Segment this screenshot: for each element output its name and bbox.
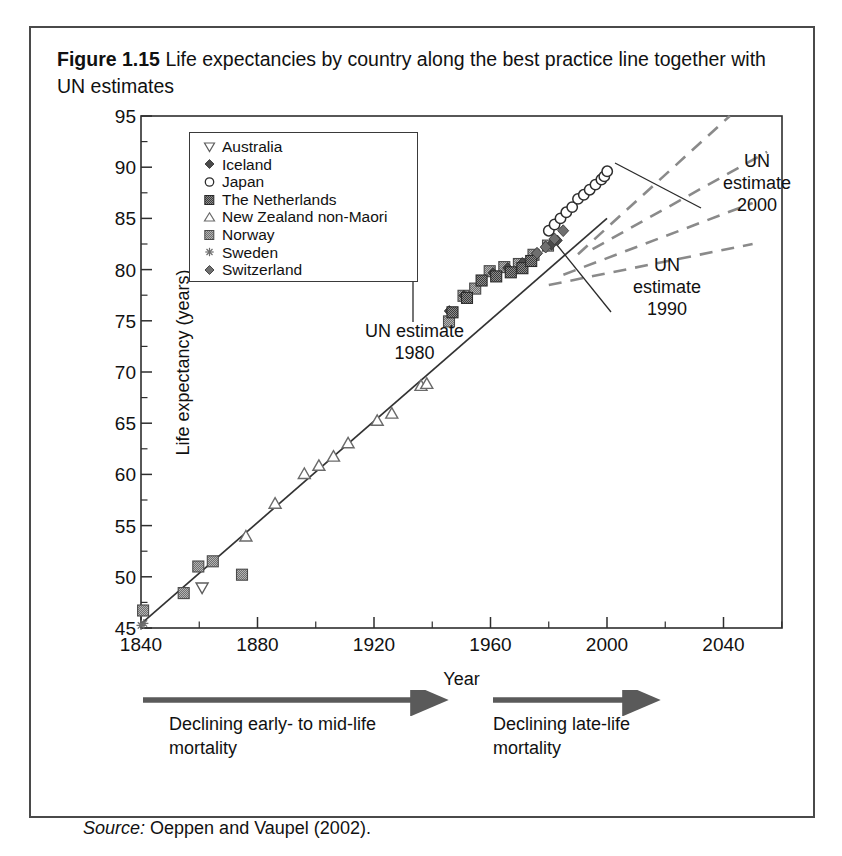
annotation-un-1990-line1: UN <box>607 254 727 276</box>
y-tick-label: 80 <box>76 261 136 280</box>
y-tick-label: 95 <box>76 107 136 126</box>
y-tick-label: 70 <box>76 363 136 382</box>
y-tick-label: 65 <box>76 414 136 433</box>
legend-item-japan: Japan <box>196 173 417 191</box>
asterisk-icon <box>196 246 222 258</box>
triangle-down-open-icon <box>196 141 222 153</box>
legend-label: Switzerland <box>222 262 302 278</box>
square-light-checked-icon <box>196 229 222 241</box>
data-series-netherlands <box>447 256 537 318</box>
legend-item-switzerland: Switzerland <box>196 261 417 279</box>
source-line: Source: Oeppen and Vaupel (2002). <box>83 818 371 839</box>
figure-card: Figure 1.15 Life expectancies by country… <box>29 26 815 818</box>
annotation-un-1980-line2: 1980 <box>337 342 492 364</box>
label-late-life-line1: Declining late-life <box>493 712 753 736</box>
leader-line-un-2000 <box>615 163 701 208</box>
label-late-life-line2: mortality <box>493 736 753 760</box>
triangle-up-open-icon <box>196 211 222 223</box>
source-label: Source: <box>83 818 145 838</box>
legend-item-norway: Norway <box>196 226 417 244</box>
annotation-un-1990-line2: estimate <box>607 276 727 298</box>
annotation-un-2000-line1: UN <box>697 150 817 172</box>
label-early-mid-line2: mortality <box>169 736 469 760</box>
data-series-australia <box>196 583 208 594</box>
diamond-gray-icon <box>196 264 222 276</box>
source-text: Oeppen and Vaupel (2002). <box>150 818 371 838</box>
annotation-un-1990-line3: 1990 <box>607 298 727 320</box>
annotation-un-estimate-2000: UN estimate 2000 <box>697 150 817 216</box>
diamond-filled-icon <box>196 158 222 170</box>
annotation-un-2000-line2: estimate <box>697 172 817 194</box>
x-tick-label: 1920 <box>329 635 419 654</box>
legend-label: New Zealand non-Maori <box>222 209 387 225</box>
y-tick-label: 90 <box>76 158 136 177</box>
legend-label: The Netherlands <box>222 192 337 208</box>
legend-label: Japan <box>222 174 264 190</box>
legend-label: Iceland <box>222 157 272 173</box>
figure-number: Figure 1.15 <box>57 48 160 70</box>
legend-label: Sweden <box>222 245 278 261</box>
x-tick-label: 1960 <box>446 635 536 654</box>
y-tick-label: 85 <box>76 209 136 228</box>
annotation-un-2000-line3: 2000 <box>697 194 817 216</box>
legend-item-netherlands: The Netherlands <box>196 191 417 209</box>
x-tick-label: 2040 <box>679 635 769 654</box>
legend-item-new-zealand: New Zealand non-Maori <box>196 208 417 226</box>
data-series-new-zealand <box>240 378 433 541</box>
chart-legend: Australia Iceland Japan The Netherlands <box>189 132 418 282</box>
x-tick-label: 1880 <box>213 635 303 654</box>
figure-caption: Figure 1.15 Life expectancies by country… <box>57 46 777 100</box>
circle-open-icon <box>196 176 222 188</box>
mortality-phase-annotations: Declining early- to mid-life mortality D… <box>141 690 801 795</box>
y-tick-label: 60 <box>76 465 136 484</box>
x-axis-title: Year <box>141 669 782 690</box>
y-tick-label: 50 <box>76 568 136 587</box>
legend-label: Norway <box>222 227 275 243</box>
annotation-un-estimate-1980: UN estimate 1980 <box>337 320 492 364</box>
figure-caption-text: Life expectancies by country along the b… <box>57 48 766 97</box>
legend-item-australia: Australia <box>196 138 417 156</box>
annotation-un-1980-line1: UN estimate <box>337 320 492 342</box>
x-tick-label: 1840 <box>96 635 186 654</box>
annotation-un-estimate-1990: UN estimate 1990 <box>607 254 727 320</box>
data-series-norway <box>138 240 554 616</box>
legend-item-iceland: Iceland <box>196 156 417 174</box>
square-dark-checked-icon <box>196 194 222 206</box>
legend-label: Australia <box>222 139 282 155</box>
x-tick-label: 2000 <box>562 635 652 654</box>
y-tick-label: 55 <box>76 517 136 536</box>
data-series-japan <box>544 166 613 236</box>
label-declining-early-mid-life: Declining early- to mid-life mortality <box>169 712 469 760</box>
chart-plot-area: Life expectancy (years) Year 95 90 85 80… <box>141 116 782 628</box>
legend-item-sweden: Sweden <box>196 244 417 262</box>
y-tick-label: 75 <box>76 312 136 331</box>
label-declining-late-life: Declining late-life mortality <box>493 712 753 760</box>
label-early-mid-line1: Declining early- to mid-life <box>169 712 469 736</box>
